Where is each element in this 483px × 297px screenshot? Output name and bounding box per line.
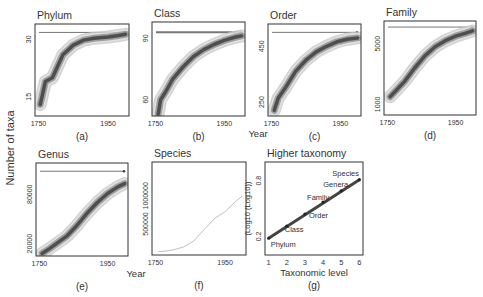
point-label: Species (332, 169, 359, 178)
y-tick-label: 60 (142, 96, 149, 104)
x-tick-label: 1750 (32, 260, 48, 267)
panel-label: (f) (194, 280, 203, 291)
plot-frame (152, 162, 246, 255)
panel-label: (g) (308, 280, 320, 291)
panel-title: Higher taxonomy (267, 147, 347, 159)
x-tick-label: 1750 (31, 120, 47, 127)
panel-b: Class175019506090(b) (142, 7, 245, 142)
asymptote-marker (123, 170, 126, 173)
x-tick-label: 5 (339, 258, 343, 267)
y-tick-label: 30 (25, 35, 32, 43)
panel-title: Family (386, 6, 418, 18)
y-tick-label: 15 (25, 93, 32, 101)
y-tick-label: 0.8 (255, 176, 262, 186)
data-point (340, 189, 343, 192)
y-tick-label: 80000 (26, 184, 33, 204)
x-tick-label: 1 (267, 258, 271, 267)
shared-x-axis-label-bottom: Year (126, 268, 145, 279)
plot-area (272, 31, 358, 110)
x-axis-label: Taxonomic level (280, 267, 348, 278)
plot-area (388, 26, 473, 97)
shared-y-axis-label: Number of taxa (4, 110, 16, 186)
panel-c: Order17501950250450(c) (258, 9, 361, 142)
panel-label: (b) (192, 131, 204, 142)
panel-g: Higher taxonomyPhylumClassOrderFamilyGen… (243, 147, 363, 291)
y-axis-label: (Log10 (Log10)) (243, 181, 252, 235)
density-band-gap (158, 36, 241, 114)
point-label: Class (285, 225, 304, 234)
x-tick-label: 1750 (264, 120, 280, 127)
x-tick-label: 3 (303, 258, 307, 267)
x-tick-label: 1950 (333, 120, 349, 127)
shared-x-axis-label-top: Year (248, 128, 267, 139)
x-tick-label: 1950 (100, 260, 116, 267)
plot-area (40, 170, 125, 254)
panel-label: (c) (309, 131, 321, 142)
x-tick-label: 6 (357, 258, 361, 267)
panel-title: Class (154, 7, 180, 19)
panel-title: Species (154, 147, 191, 159)
panel-title: Genus (38, 148, 69, 160)
point-label: Family (307, 193, 329, 202)
panel-f: Species175019505000001000000(f) (142, 147, 246, 291)
y-tick-label: 250 (258, 96, 265, 108)
x-tick-label: 1750 (380, 119, 396, 126)
y-tick-label: 5000 (374, 36, 381, 52)
panels: Phylum175019501530(a)Class175019506090(b… (25, 6, 476, 292)
x-tick-label: 1750 (148, 120, 164, 127)
x-tick-label: 1950 (100, 120, 116, 127)
y-tick-label: 20000 (26, 234, 33, 254)
panel-d: Family1750195010005000(d) (374, 6, 476, 141)
y-tick-label: 0.2 (255, 231, 262, 241)
point-label: Order (309, 211, 329, 220)
y-tick-label: 90 (142, 34, 149, 42)
point-label: Phylum (271, 240, 296, 249)
panel-title: Phylum (37, 9, 72, 21)
figure-svg: Number of taxa Year Year Phylum175019501… (0, 0, 483, 297)
y-tick-label: 1000000 (142, 182, 149, 209)
y-tick-label: 1000 (374, 96, 381, 112)
figure: Number of taxa Year Year Phylum175019501… (0, 0, 483, 297)
data-point (358, 178, 361, 181)
panel-label: (d) (424, 130, 436, 141)
plot-area (158, 196, 242, 252)
x-tick-label: 1950 (448, 119, 464, 126)
point-label: Genera (323, 180, 349, 189)
plot-area (39, 31, 126, 104)
data-point (303, 212, 306, 215)
x-tick-label: 2 (285, 258, 289, 267)
panel-a: Phylum175019501530(a) (25, 9, 129, 142)
panel-label: (a) (76, 131, 88, 142)
panel-e: Genus175019502000080000(e) (26, 148, 128, 292)
species-curve (158, 196, 242, 252)
plot-area (156, 31, 242, 114)
x-tick-label: 1950 (217, 120, 233, 127)
x-tick-label: 1950 (217, 259, 233, 266)
panel-label: (e) (76, 281, 88, 292)
x-tick-label: 1750 (148, 259, 164, 266)
panel-title: Order (270, 9, 297, 21)
y-tick-label: 450 (258, 40, 265, 52)
y-tick-label: 500000 (142, 212, 149, 235)
x-tick-label: 4 (321, 258, 325, 267)
